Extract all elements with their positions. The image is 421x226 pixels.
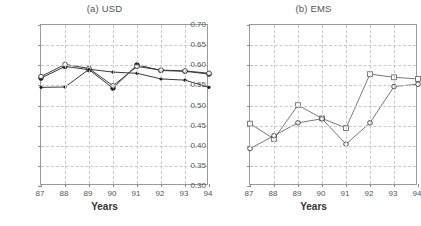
gridline-vertical: [274, 25, 275, 184]
y-tick-mark: [38, 65, 41, 66]
x-tick-mark: [89, 184, 90, 187]
x-tick-mark: [394, 184, 395, 187]
x-tick-label: 90: [108, 189, 117, 198]
x-tick-mark: [250, 184, 251, 187]
data-point-s2-87: [248, 146, 253, 151]
x-tick-label: 89: [293, 189, 302, 198]
y-tick-label: 0.50: [190, 100, 206, 109]
x-tick-mark: [185, 184, 186, 187]
gridline-vertical: [137, 25, 138, 184]
x-tick-mark: [346, 184, 347, 187]
y-tick-mark: [247, 166, 250, 167]
y-tick-mark: [247, 25, 250, 26]
gridline-vertical: [346, 25, 347, 184]
panel-usd: (a) USD 0.700.650.600.550.500.450.400.35…: [0, 0, 209, 226]
y-tick-mark: [247, 45, 250, 46]
data-point-s2-87: [39, 74, 44, 79]
x-tick-mark: [113, 184, 114, 187]
x-tick-mark: [418, 184, 419, 187]
y-tick-mark: [38, 166, 41, 167]
y-tick-mark: [247, 146, 250, 147]
y-tick-mark: [247, 126, 250, 127]
x-tick-label: 93: [180, 189, 189, 198]
y-tick-mark: [38, 25, 41, 26]
gridline-vertical: [89, 25, 90, 184]
x-tick-label: 88: [60, 189, 69, 198]
x-tick-mark: [137, 184, 138, 187]
panel-a-x-axis-title: Years: [0, 201, 209, 212]
y-tick-label: 0.55: [190, 80, 206, 89]
y-tick-label: 0.30: [190, 181, 206, 190]
y-tick-mark: [38, 45, 41, 46]
x-tick-label: 87: [36, 189, 45, 198]
data-point-s2-94: [416, 82, 421, 87]
y-tick-mark: [247, 65, 250, 66]
x-tick-label: 91: [341, 189, 350, 198]
x-tick-label: 89: [84, 189, 93, 198]
data-point-s3-87: [40, 86, 43, 89]
gridline-vertical: [370, 25, 371, 184]
y-tick-label: 0.40: [190, 140, 206, 149]
gridline-vertical: [394, 25, 395, 184]
gridline-vertical: [65, 25, 66, 184]
x-tick-label: 87: [245, 189, 254, 198]
panel-b-title: (b) EMS: [209, 3, 418, 14]
x-tick-mark: [41, 184, 42, 187]
y-tick-mark: [38, 126, 41, 127]
x-tick-mark: [65, 184, 66, 187]
x-tick-label: 92: [365, 189, 374, 198]
gridline-vertical: [185, 25, 186, 184]
panel-ems: (b) EMS 0.700.650.600.550.500.450.400.35…: [209, 0, 418, 226]
panel-b-x-axis-title: Years: [209, 201, 418, 212]
panel-a-title: (a) USD: [0, 3, 209, 14]
y-tick-mark: [247, 106, 250, 107]
x-tick-label: 92: [156, 189, 165, 198]
panel-a-plot-area: [40, 24, 208, 185]
x-tick-mark: [322, 184, 323, 187]
x-tick-mark: [370, 184, 371, 187]
y-tick-mark: [247, 85, 250, 86]
panel-b-plot-area: [249, 24, 417, 185]
x-tick-label: 88: [269, 189, 278, 198]
x-tick-label: 93: [389, 189, 398, 198]
x-tick-label: 94: [413, 189, 421, 198]
gridline-vertical: [113, 25, 114, 184]
y-tick-mark: [38, 146, 41, 147]
x-tick-mark: [161, 184, 162, 187]
gridline-vertical: [161, 25, 162, 184]
data-point-s1-94: [416, 77, 421, 82]
x-tick-label: 91: [132, 189, 141, 198]
gridline-vertical: [322, 25, 323, 184]
y-tick-label: 0.70: [190, 20, 206, 29]
x-tick-mark: [298, 184, 299, 187]
series-line-1: [250, 74, 418, 139]
x-tick-label: 90: [317, 189, 326, 198]
y-tick-mark: [38, 85, 41, 86]
gridline-vertical: [298, 25, 299, 184]
y-tick-label: 0.65: [190, 40, 206, 49]
y-tick-mark: [38, 106, 41, 107]
y-tick-label: 0.45: [190, 120, 206, 129]
x-tick-mark: [274, 184, 275, 187]
y-tick-label: 0.60: [190, 60, 206, 69]
y-tick-label: 0.35: [190, 160, 206, 169]
